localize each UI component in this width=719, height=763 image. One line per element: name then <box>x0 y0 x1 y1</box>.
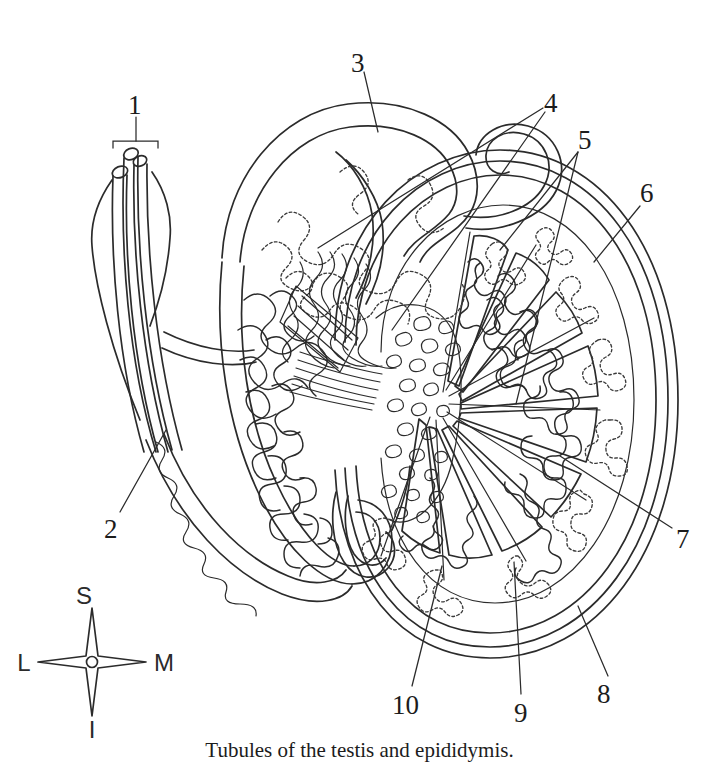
rete-island-14 <box>398 423 414 436</box>
epididymal-coil-solid-12 <box>272 384 300 435</box>
rete-island-21 <box>382 485 397 498</box>
rete-testis-group <box>376 305 461 523</box>
label-10: 10 <box>392 690 419 720</box>
rete-island-10 <box>424 383 439 396</box>
dashed-lobule-6 <box>505 556 551 598</box>
label-7: 7 <box>676 524 690 554</box>
spermatic-cord-group <box>92 146 352 616</box>
compass-star <box>38 608 146 716</box>
figure-caption: Tubules of the testis and epididymis. <box>0 738 719 763</box>
label-1: 1 <box>128 90 142 120</box>
rete-island-22 <box>407 489 420 500</box>
epididymis-sinus-lower <box>346 160 383 304</box>
epididymal-coil-solid-10 <box>270 291 314 341</box>
rete-island-11 <box>388 399 404 412</box>
compass-label-superior: S <box>76 582 92 609</box>
label-4: 4 <box>544 88 558 118</box>
efferent-ductule-6 <box>282 262 303 362</box>
leader-lines-group <box>113 72 672 694</box>
cord-fascia-right <box>150 172 170 326</box>
cord-vessel-tube-2-right <box>147 164 182 450</box>
epididymis-head-solid-coils <box>238 291 339 576</box>
leader-10 <box>412 566 442 686</box>
label-6: 6 <box>640 178 654 208</box>
leader-4a <box>318 108 543 248</box>
lobule-outline-7 <box>442 426 542 551</box>
rete-island-2 <box>439 321 454 334</box>
epididymal-coil-solid-7 <box>270 486 300 540</box>
label-3: 3 <box>351 48 365 78</box>
rete-island-16 <box>386 445 402 458</box>
number-labels-group: 1 2 3 4 5 6 7 8 9 10 <box>104 48 690 728</box>
lobule-outline-5 <box>459 408 597 462</box>
rete-island-13 <box>437 405 450 416</box>
compass-label-medial: M <box>154 649 174 676</box>
epididymal-duct-dashed-5 <box>340 166 368 214</box>
epididymal-coil-solid-15 <box>318 518 332 544</box>
label-5: 5 <box>578 125 592 155</box>
epididymal-coil-solid-5 <box>252 423 276 480</box>
leader-1-bracket <box>113 141 158 148</box>
rete-island-3 <box>396 332 412 346</box>
epididymis-head-inner <box>240 126 457 262</box>
leader-7 <box>560 456 672 528</box>
epididymal-coil-solid-14 <box>293 478 316 525</box>
seminiferous-coil-5 <box>521 392 581 480</box>
testis-lobules-group <box>402 236 598 558</box>
rete-island-7 <box>410 359 426 372</box>
dashed-lobule-4 <box>585 420 627 476</box>
label-8: 8 <box>597 679 611 709</box>
label-9: 9 <box>514 698 528 728</box>
rete-island-6 <box>387 355 402 368</box>
vas-deferens-lumen <box>156 442 256 616</box>
rete-island-19 <box>400 467 415 480</box>
lobule-outline-4 <box>461 346 598 409</box>
rete-island-1 <box>414 317 431 331</box>
orientation-compass: S I L M <box>17 582 174 743</box>
epididymis-head-coils-group <box>262 166 465 326</box>
leader-8 <box>578 606 608 676</box>
compass-label-lateral: L <box>17 649 30 676</box>
dashed-lobule-9 <box>536 228 573 265</box>
rete-island-9 <box>400 379 416 392</box>
cord-vessel-tube-3-right <box>126 175 158 452</box>
cord-cross-upper <box>164 332 254 351</box>
rete-island-12 <box>412 403 427 416</box>
compass-center-circle <box>87 657 98 668</box>
dashed-lobule-7 <box>417 570 463 616</box>
rete-island-18 <box>435 451 448 462</box>
seminiferous-coil-6 <box>505 434 566 518</box>
leader-6 <box>594 206 640 262</box>
rete-island-4 <box>421 339 437 353</box>
label-2: 2 <box>104 514 118 544</box>
